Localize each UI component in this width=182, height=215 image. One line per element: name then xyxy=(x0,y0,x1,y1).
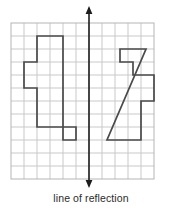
arrow-down-icon xyxy=(86,180,93,188)
caption-label: line of reflection xyxy=(0,192,182,204)
reflection-diagram xyxy=(0,0,182,215)
arrow-up-icon xyxy=(86,6,93,14)
